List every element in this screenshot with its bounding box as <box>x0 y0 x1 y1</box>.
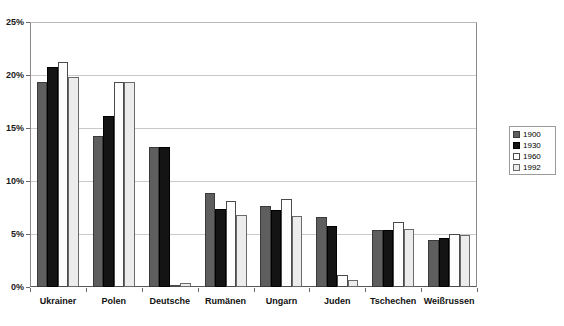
bar-rumänen-1900 <box>205 193 216 287</box>
bar-weißrussen-1900 <box>428 240 439 287</box>
legend-item-1900: 1900 <box>513 129 553 139</box>
y-tick-label: 10% <box>0 176 24 186</box>
bar-weißrussen-1960 <box>449 234 460 287</box>
bar-group <box>421 22 477 287</box>
bar-group <box>198 22 254 287</box>
bar-ungarn-1900 <box>260 206 271 287</box>
bar-ungarn-1930 <box>271 210 282 287</box>
bar-weißrussen-1992 <box>460 235 471 287</box>
x-category-label-ukrainer: Ukrainer <box>40 296 77 306</box>
bar-deutsche-1930 <box>159 147 170 287</box>
y-tick-mark <box>26 22 30 23</box>
bar-weißrussen-1930 <box>439 238 450 287</box>
x-category-label-rumänen: Rumänen <box>205 296 246 306</box>
y-tick-mark <box>26 287 30 288</box>
legend-swatch-icon <box>513 131 520 138</box>
bar-polen-1992 <box>124 82 135 287</box>
bar-juden-1992 <box>348 280 359 287</box>
bar-group <box>365 22 421 287</box>
bar-rumänen-1992 <box>236 215 247 287</box>
legend-item-1960: 1960 <box>513 151 553 161</box>
y-tick-label: 20% <box>0 70 24 80</box>
legend-swatch-icon <box>513 153 520 160</box>
x-tick-mark <box>142 288 143 292</box>
y-tick-mark <box>26 181 30 182</box>
x-tick-mark <box>309 288 310 292</box>
bar-chart: 25%20%15%10%5%0% UkrainerPolenDeutscheRu… <box>0 0 564 326</box>
x-tick-mark <box>198 288 199 292</box>
legend-label: 1930 <box>523 141 541 150</box>
x-tick-mark <box>365 288 366 292</box>
bar-juden-1930 <box>327 226 338 287</box>
legend: 1900193019601992 <box>509 126 556 175</box>
x-category-label-polen: Polen <box>102 296 127 306</box>
x-category-label-ungarn: Ungarn <box>266 296 298 306</box>
legend-item-1930: 1930 <box>513 140 553 150</box>
bar-polen-1960 <box>114 82 125 287</box>
bar-rumänen-1930 <box>215 209 226 287</box>
y-axis: 25%20%15%10%5%0% <box>0 0 30 326</box>
y-tick-label: 5% <box>0 229 24 239</box>
x-tick-mark <box>477 288 478 292</box>
y-tick-label: 0% <box>0 282 24 292</box>
bar-tschechen-1992 <box>404 229 415 287</box>
bar-group <box>86 22 142 287</box>
bar-deutsche-1992 <box>180 283 191 287</box>
y-tick-label: 25% <box>0 17 24 27</box>
x-category-label-tschechen: Tschechen <box>370 296 416 306</box>
bar-rumänen-1960 <box>226 201 237 287</box>
bar-group <box>142 22 198 287</box>
bar-group <box>309 22 365 287</box>
x-category-label-juden: Juden <box>324 296 351 306</box>
bar-juden-1900 <box>316 217 327 287</box>
x-category-label-deutsche: Deutsche <box>149 296 190 306</box>
bar-polen-1930 <box>103 116 114 287</box>
x-tick-mark <box>86 288 87 292</box>
legend-item-1992: 1992 <box>513 162 553 172</box>
legend-label: 1992 <box>523 163 541 172</box>
x-tick-mark <box>421 288 422 292</box>
x-tick-mark <box>30 288 31 292</box>
bar-tschechen-1900 <box>372 230 383 287</box>
bar-deutsche-1900 <box>149 147 160 287</box>
bar-polen-1900 <box>93 136 104 287</box>
bar-ukrainer-1960 <box>58 62 69 287</box>
bar-ungarn-1992 <box>292 216 303 287</box>
bar-group <box>30 22 86 287</box>
bar-ukrainer-1930 <box>47 67 58 287</box>
legend-swatch-icon <box>513 164 520 171</box>
y-tick-mark <box>26 75 30 76</box>
legend-label: 1900 <box>523 130 541 139</box>
bars-layer <box>30 22 477 287</box>
legend-swatch-icon <box>513 142 520 149</box>
bar-ungarn-1960 <box>281 199 292 287</box>
bar-deutsche-1960 <box>170 285 181 287</box>
y-tick-mark <box>26 128 30 129</box>
bar-juden-1960 <box>337 275 348 287</box>
bar-tschechen-1930 <box>383 230 394 287</box>
legend-label: 1960 <box>523 152 541 161</box>
bar-tschechen-1960 <box>393 222 404 287</box>
x-tick-mark <box>254 288 255 292</box>
bar-group <box>254 22 310 287</box>
bar-ukrainer-1900 <box>37 82 48 287</box>
y-tick-label: 15% <box>0 123 24 133</box>
x-category-label-weißrussen: Weißrussen <box>424 296 475 306</box>
bar-ukrainer-1992 <box>68 77 79 287</box>
y-tick-mark <box>26 234 30 235</box>
